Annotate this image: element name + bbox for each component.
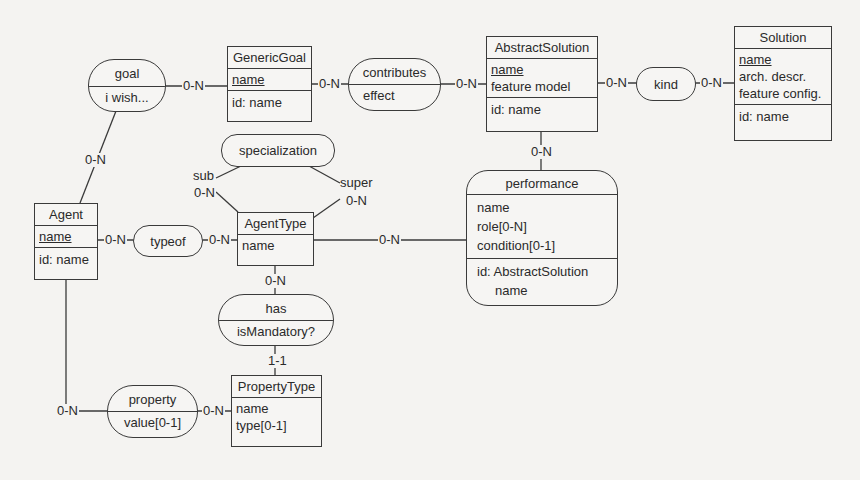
entity-attribute: name bbox=[238, 235, 313, 256]
entity-name: GenericGoal bbox=[228, 47, 311, 69]
role-sub: sub bbox=[193, 169, 214, 183]
relationship-goal[interactable]: goal i wish... bbox=[88, 59, 166, 112]
entity-identifier: id: name bbox=[487, 97, 597, 121]
relationship-name: goal bbox=[89, 60, 165, 86]
entity-attribute-key: name bbox=[232, 72, 265, 87]
cardinality-typeof-agenttype: 0-N bbox=[208, 233, 231, 247]
cardinality-agent-property: 0-N bbox=[56, 404, 79, 418]
entity-genericgoal[interactable]: GenericGoal name id: name bbox=[227, 46, 312, 122]
entity-identifier: id: AbstractSolution bbox=[477, 262, 607, 281]
entity-attribute: role[0-N] bbox=[477, 217, 607, 236]
entity-identifier: id: name bbox=[35, 247, 97, 271]
cardinality-agent-typeof: 0-N bbox=[104, 233, 127, 247]
entity-attribute-key: name bbox=[39, 229, 72, 244]
entity-agent[interactable]: Agent name id: name bbox=[34, 203, 98, 280]
entity-attribute: arch. descr. bbox=[739, 68, 827, 85]
cardinality-specialization-sub: 0-N bbox=[193, 186, 216, 200]
cardinality-genericgoal-contributes: 0-N bbox=[318, 77, 341, 91]
cardinality-contributes-abstractsolution: 0-N bbox=[455, 77, 478, 91]
relationship-name: typeof bbox=[150, 234, 185, 249]
entity-attribute: type[0-1] bbox=[236, 417, 317, 434]
entity-identifier: id: name bbox=[735, 104, 831, 128]
entity-solution[interactable]: Solution name arch. descr. feature confi… bbox=[734, 26, 832, 141]
relationship-attribute: effect bbox=[349, 84, 440, 107]
entity-name: performance bbox=[467, 171, 617, 195]
entity-attribute: feature model bbox=[491, 78, 593, 95]
entity-name: AgentType bbox=[238, 213, 313, 235]
entity-attribute: feature config. bbox=[739, 85, 827, 102]
entity-agenttype[interactable]: AgentType name bbox=[237, 212, 314, 266]
cardinality-agenttype-performance: 0-N bbox=[378, 233, 401, 247]
cardinality-agenttype-has: 0-N bbox=[264, 274, 287, 288]
relationship-name: specialization bbox=[239, 143, 317, 158]
relationship-typeof[interactable]: typeof bbox=[133, 225, 203, 257]
relationship-has[interactable]: has isMandatory? bbox=[218, 294, 334, 346]
entity-name: Solution bbox=[735, 27, 831, 49]
relationship-attribute: i wish... bbox=[89, 86, 165, 109]
relationship-name: property bbox=[108, 386, 197, 411]
entity-attribute: name bbox=[477, 198, 607, 217]
entity-name: AbstractSolution bbox=[487, 37, 597, 59]
cardinality-abstractsolution-kind: 0-N bbox=[605, 76, 628, 90]
relationship-kind[interactable]: kind bbox=[636, 67, 696, 101]
entity-name: Agent bbox=[35, 204, 97, 226]
entity-attribute: name bbox=[236, 400, 317, 417]
relationship-name: kind bbox=[654, 77, 678, 92]
entity-identifier: id: name bbox=[228, 90, 311, 114]
relationship-property[interactable]: property value[0-1] bbox=[107, 385, 198, 438]
relationship-name: contributes bbox=[349, 59, 440, 84]
entity-name: PropertyType bbox=[232, 376, 321, 398]
entity-attribute-key: name bbox=[739, 51, 827, 68]
relationship-name: has bbox=[219, 295, 333, 320]
role-super: super bbox=[340, 176, 373, 190]
relationship-attribute: value[0-1] bbox=[108, 411, 197, 434]
entity-performance[interactable]: performance name role[0-N] condition[0-1… bbox=[466, 170, 618, 306]
cardinality-kind-solution: 0-N bbox=[700, 76, 723, 90]
cardinality-goal-genericgoal: 0-N bbox=[182, 79, 205, 93]
relationship-contributes[interactable]: contributes effect bbox=[348, 58, 441, 111]
cardinality-specialization-super: 0-N bbox=[345, 194, 368, 208]
entity-attribute: condition[0-1] bbox=[477, 236, 607, 255]
cardinality-abstractsolution-performance: 0-N bbox=[530, 145, 553, 159]
cardinality-goal-agent: 0-N bbox=[84, 153, 107, 167]
entity-abstractsolution[interactable]: AbstractSolution name feature model id: … bbox=[486, 36, 598, 132]
cardinality-has-propertytype: 1-1 bbox=[267, 354, 288, 368]
entity-attribute-key: name bbox=[491, 61, 593, 78]
entity-propertytype[interactable]: PropertyType name type[0-1] bbox=[231, 375, 322, 447]
entity-identifier-part: name bbox=[477, 281, 607, 300]
cardinality-property-propertytype: 0-N bbox=[202, 404, 225, 418]
relationship-specialization[interactable]: specialization bbox=[221, 134, 335, 167]
relationship-attribute: isMandatory? bbox=[219, 320, 333, 343]
